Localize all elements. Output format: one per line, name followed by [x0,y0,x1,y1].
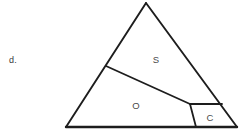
region-label-c: C [206,112,213,123]
divider-left-to-junction [106,66,190,104]
region-label-o: O [132,100,140,111]
figure-container: d. S O C [0,0,244,138]
region-label-s: S [153,54,160,65]
triangle-diagram: S O C [0,0,244,138]
divider-junction-to-base [190,104,196,127]
